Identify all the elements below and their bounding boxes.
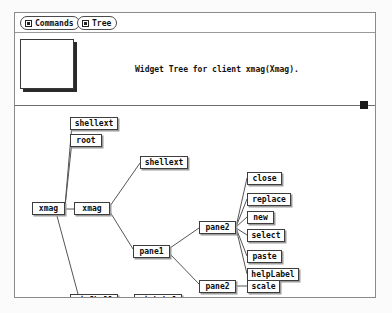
widget-tree-canvas[interactable]: shellextrootxmagxmagshellextpane1pane2pa… (15, 106, 375, 297)
tree-node-label: select (252, 231, 281, 240)
tree-node[interactable]: xmag (32, 202, 65, 215)
tree-node[interactable]: pane1 (133, 245, 170, 258)
tree-node-label: close (252, 174, 276, 183)
tree-edge (65, 141, 72, 207)
panner-shadow-right (74, 42, 77, 92)
tree-edge-lines (15, 106, 375, 297)
tree-node-label: pane1 (139, 247, 163, 256)
tree-node-label: new (253, 213, 267, 222)
tree-edge (170, 254, 199, 284)
tree-node[interactable]: shellext (140, 156, 188, 169)
tree-node[interactable]: xmag (74, 202, 110, 215)
tree-node[interactable]: pixShell (70, 294, 118, 297)
tree-node-label: replace (252, 195, 286, 204)
tree-node-label: pixLabel (139, 296, 178, 297)
tree-node-label: pane2 (205, 223, 229, 232)
tree-edge (110, 212, 133, 249)
tree-node-label: shellext (145, 158, 184, 167)
tree-edge (110, 163, 140, 206)
menu-button-tree-label: Tree (92, 19, 111, 28)
tree-node-label: scale (251, 282, 275, 291)
tree-node[interactable]: pixLabel (134, 294, 182, 297)
tree-node-label: paste (252, 252, 276, 261)
tree-node-label: root (76, 136, 95, 145)
panner-box[interactable] (20, 39, 74, 89)
tree-node[interactable]: new (247, 211, 274, 224)
tree-edge (57, 216, 78, 294)
editres-window: Commands Tree Widget Tree for client xma… (14, 12, 376, 298)
tree-node[interactable]: root (70, 134, 102, 147)
tree-node[interactable]: select (247, 229, 285, 242)
menu-box-icon (82, 20, 89, 27)
tree-node[interactable]: pane2 (199, 280, 236, 293)
tree-node[interactable]: paste (247, 250, 282, 263)
tree-node[interactable]: pane2 (199, 221, 236, 234)
page-title: Widget Tree for client xmag(Xmag). (135, 65, 299, 75)
tree-node-label: xmag (39, 204, 58, 213)
screenshot-root: Commands Tree Widget Tree for client xma… (0, 0, 392, 313)
menu-bar: Commands Tree (15, 13, 375, 33)
menu-box-icon (25, 20, 32, 27)
tree-node[interactable]: close (247, 172, 282, 185)
tree-node-label: shellext (75, 119, 114, 128)
tree-node[interactable]: shellext (70, 117, 118, 130)
tree-edge (170, 228, 199, 248)
menu-button-commands-label: Commands (35, 19, 74, 28)
tree-node-label: xmag (82, 204, 101, 213)
panner-shadow-bottom (23, 89, 77, 92)
tree-node-label: pane2 (205, 282, 229, 291)
menu-button-tree[interactable]: Tree (77, 16, 117, 30)
panner-widget[interactable] (20, 39, 77, 92)
tree-node[interactable]: replace (247, 193, 291, 206)
tree-node-label: pixShell (75, 296, 114, 297)
menu-button-commands[interactable]: Commands (20, 16, 80, 30)
tree-node-label: helpLabel (251, 270, 294, 279)
tree-node[interactable]: scale (247, 280, 280, 293)
